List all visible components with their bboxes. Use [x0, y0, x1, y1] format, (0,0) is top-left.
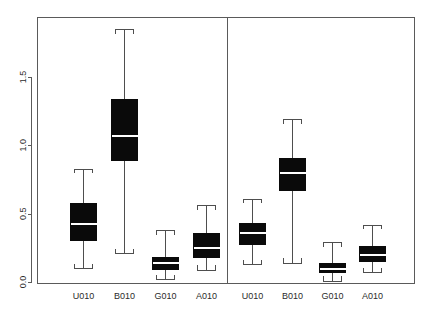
x-axis-tick-label: B010	[282, 291, 303, 301]
y-axis-tick-label: 1.5	[18, 71, 28, 84]
y-axis-tick-label: 0.0	[18, 276, 28, 289]
box-plot-item	[153, 231, 179, 280]
box-plot-item	[71, 169, 97, 269]
boxplot-canvas: 0.00.51.01.5 U010B010G010A010U010B010G01…	[0, 0, 435, 319]
box-plot-item	[320, 243, 346, 281]
box-plot-item	[194, 206, 220, 270]
x-axis-tick-label: A010	[196, 291, 217, 301]
x-axis-tick-label: G010	[154, 291, 176, 301]
y-axis-tick-label: 1.0	[18, 139, 28, 152]
box-plot-item	[280, 120, 306, 264]
plot-border	[38, 18, 415, 284]
axis-group: 0.00.51.01.5	[18, 71, 32, 289]
x-axis-tick-label: B010	[114, 291, 135, 301]
box-plot-item	[360, 225, 386, 272]
x-axis-tick-label: G010	[321, 291, 343, 301]
box-plot-item	[240, 199, 266, 265]
box-iqr	[71, 203, 97, 240]
x-axis-labels: U010B010G010A010U010B010G010A010	[73, 291, 383, 301]
box-iqr	[280, 158, 306, 191]
y-axis-tick-label: 0.5	[18, 207, 28, 220]
x-axis-tick-label: U010	[242, 291, 264, 301]
box-iqr	[112, 99, 138, 161]
x-axis-tick-label: A010	[362, 291, 383, 301]
plot-frame	[38, 18, 415, 284]
boxplot-figure: 0.00.51.01.5 U010B010G010A010U010B010G01…	[0, 0, 435, 319]
box-iqr	[194, 233, 220, 258]
x-axis-tick-label: U010	[73, 291, 95, 301]
box-plot-item	[112, 30, 138, 254]
